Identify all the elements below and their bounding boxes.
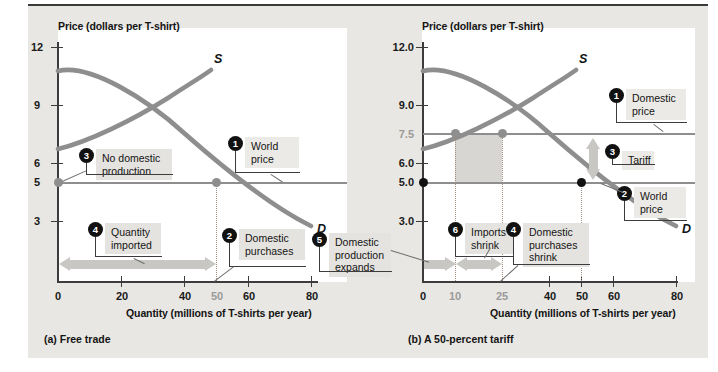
callout-underline-a-2	[229, 266, 306, 267]
callout-a-domestic-purchases: Domestic purchases	[239, 229, 305, 260]
callout-underline-b-3	[612, 164, 655, 165]
callout-bullet-b-5: 5	[312, 232, 327, 247]
callout-underline-a-1	[235, 172, 300, 173]
callout-bullet-b-6: 6	[448, 222, 463, 237]
callout-underline-a-4	[95, 256, 162, 257]
callout-a-world-price: World price	[245, 137, 299, 168]
callout-underline-b-5	[319, 271, 392, 272]
domestic-price-line-b	[423, 133, 695, 135]
equilibrium-dot-b-25	[498, 129, 507, 138]
world-price-line-a	[58, 182, 347, 184]
callout-b-tariff: Tariff	[622, 151, 654, 170]
panel-tariff: Price (dollars per T-shirt) 12.0 9.0 7.5…	[360, 0, 708, 372]
tariff-arrow	[586, 138, 600, 180]
callout-bullet-b-2: 2	[617, 186, 632, 201]
arrow-head-right-icon	[491, 257, 502, 271]
arrow-bar	[466, 260, 492, 269]
callout-stem-a-2	[229, 243, 230, 267]
panel-free-trade: Price (dollars per T-shirt) 12 9 6 5 3 0…	[28, 0, 360, 372]
callout-bullet-a-2: 2	[222, 228, 237, 243]
callout-b-domestic-purchases-shrink: Domestic purchases shrink	[523, 223, 589, 267]
callout-stem-b-5	[319, 247, 320, 272]
callout-bullet-a-3: 3	[79, 148, 94, 163]
callout-stem-a-4	[95, 237, 96, 257]
equilibrium-dot-b-origin	[419, 178, 428, 187]
callout-underline-b-1	[616, 122, 687, 123]
supply-label-a: S	[214, 52, 222, 66]
supply-label-b: S	[579, 52, 587, 66]
arrow-head-right-icon	[445, 257, 456, 271]
equilibrium-dot-b-50	[577, 178, 586, 187]
callout-a-no-domestic-production: No domestic production	[96, 149, 172, 180]
callout-underline-a-3	[86, 174, 173, 175]
arrow-head-down-icon	[586, 169, 600, 180]
demand-label-b: D	[682, 222, 691, 236]
figure-container: Price (dollars per T-shirt) 12 9 6 5 3 0…	[0, 0, 718, 372]
callout-stem-a-1	[235, 151, 236, 173]
quantity-gridline-a-50	[216, 183, 217, 281]
arrow-bar	[589, 148, 598, 170]
callout-stem-b-2	[624, 201, 625, 220]
equilibrium-dot-a-50	[212, 178, 221, 187]
callout-underline-b-4	[513, 264, 590, 265]
callout-stem-b-4	[513, 237, 514, 265]
imports-shrink-arrow	[456, 257, 502, 271]
curves-a	[28, 0, 360, 372]
callout-bullet-a-1: 1	[228, 136, 243, 151]
callout-stem-b-6	[455, 237, 456, 257]
quantity-gridline-b-25	[502, 134, 503, 281]
equilibrium-dot-a-origin	[54, 178, 63, 187]
equilibrium-dot-b-10	[451, 129, 460, 138]
world-price-line-b	[423, 182, 695, 184]
callout-bullet-b-1: 1	[609, 88, 624, 103]
callout-b-world-price: World price	[634, 187, 686, 218]
page-margin-left	[0, 0, 28, 372]
callout-a-quantity-imported: Quantity imported	[105, 223, 161, 254]
callout-b-domestic-price: Domestic price	[626, 89, 686, 120]
page-margin-right	[708, 0, 718, 372]
arrow-head-right-icon	[205, 257, 216, 271]
callout-stem-b-1	[616, 103, 617, 123]
curves-b	[360, 0, 708, 372]
callout-bullet-b-3: 3	[605, 144, 620, 159]
domestic-production-expands-arrow	[424, 257, 456, 271]
callout-underline-b-2	[624, 220, 687, 221]
callout-bullet-b-4: 4	[506, 222, 521, 237]
callout-bullet-a-4: 4	[88, 222, 103, 237]
